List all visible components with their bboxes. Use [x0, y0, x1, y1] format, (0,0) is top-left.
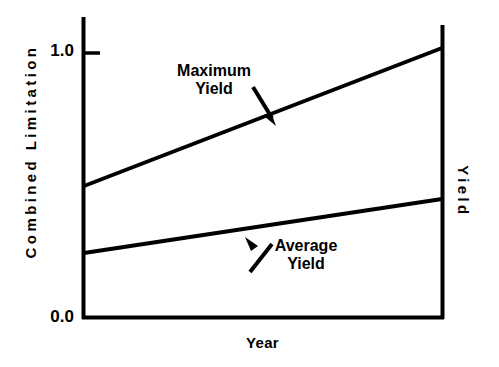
average-yield-label: Average Yield [256, 237, 356, 273]
chart-canvas [0, 0, 499, 367]
y-tick-label-bottom: 0.0 [28, 307, 74, 327]
x-axis-title: Year [82, 334, 443, 351]
y-tick-label-top: 1.0 [28, 41, 74, 61]
chart-figure: Combined Limitation Yield Year 1.0 0.0 M… [0, 0, 499, 367]
average-yield-label-line1: Average [256, 237, 356, 255]
maximum-yield-label-line1: Maximum [155, 62, 273, 80]
average-yield-label-line2: Yield [256, 255, 356, 273]
maximum-yield-label: Maximum Yield [155, 62, 273, 98]
maximum-yield-label-line2: Yield [155, 80, 273, 98]
y-axis-title-right: Yield [455, 42, 472, 342]
